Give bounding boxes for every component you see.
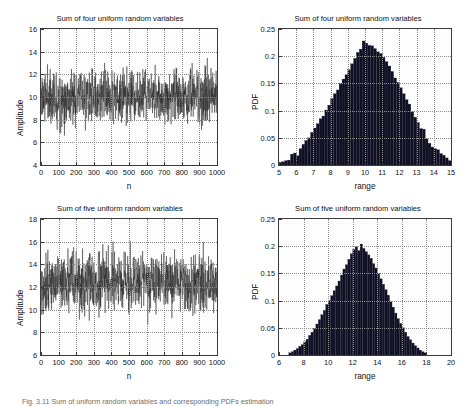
gridline-horizontal — [279, 301, 451, 302]
x-tick-label: 1000 — [209, 168, 225, 177]
x-tick-label: 500 — [123, 168, 135, 177]
x-tick-label: 6 — [277, 358, 281, 367]
x-tick-label: 800 — [176, 358, 188, 367]
gridline-horizontal — [279, 246, 451, 247]
y-tick-label: 0.05 — [248, 133, 275, 142]
x-tick-label: 0 — [39, 358, 43, 367]
y-tick-label: 0.2 — [248, 242, 275, 251]
histogram-bar — [372, 264, 374, 355]
histogram-bar — [351, 64, 354, 165]
histogram-bar — [409, 340, 411, 355]
gridline-vertical — [348, 29, 349, 165]
y-tick-mark — [279, 165, 282, 166]
histogram-bar — [440, 154, 443, 165]
y-tick-mark — [41, 74, 44, 75]
histogram-bar — [404, 332, 406, 355]
x-tick-mark — [76, 352, 77, 355]
x-tick-mark — [182, 352, 183, 355]
y-tick-label: 12 — [10, 283, 37, 292]
x-tick-label: 8 — [302, 358, 306, 367]
x-tick-label: 0 — [39, 168, 43, 177]
chart-title-bottom-right: Sum of five uniform random variables — [258, 204, 458, 213]
panel-top-left: Sum of four uniform random variables n A… — [6, 14, 220, 196]
histogram-bar — [428, 143, 431, 165]
x-tick-label: 10 — [324, 358, 332, 367]
x-tick-mark — [59, 352, 60, 355]
y-tick-mark — [279, 29, 282, 30]
x-tick-mark — [348, 162, 349, 165]
x-tick-label: 12 — [395, 168, 403, 177]
x-tick-mark — [94, 352, 95, 355]
y-tick-mark — [41, 165, 44, 166]
histogram-bar — [388, 66, 391, 165]
x-tick-mark — [164, 162, 165, 165]
histogram-bar — [311, 332, 313, 355]
histogram-bar — [380, 279, 382, 355]
histogram-bar — [394, 78, 397, 165]
histogram-bar — [382, 284, 384, 355]
histogram-bar — [343, 269, 345, 355]
y-tick-mark — [41, 29, 44, 30]
x-tick-mark — [417, 162, 418, 165]
x-tick-label: 200 — [70, 168, 82, 177]
chart-title-bottom-left: Sum of five uniform random variables — [20, 204, 220, 213]
histogram-bar — [288, 160, 291, 165]
panel-bottom-left: Sum of five uniform random variables n A… — [6, 204, 220, 386]
gridline-horizontal — [41, 287, 217, 288]
histogram-bar — [368, 45, 371, 165]
y-tick-label: 0.15 — [248, 269, 275, 278]
x-tick-label: 13 — [412, 168, 420, 177]
x-tick-mark — [296, 162, 297, 165]
histogram-bar — [296, 348, 298, 355]
x-tick-mark — [147, 352, 148, 355]
histogram-bar — [425, 139, 428, 165]
y-tick-label: 0.1 — [248, 106, 275, 115]
histogram-bar — [336, 286, 338, 355]
histogram-bar — [374, 49, 377, 165]
histogram-bar — [289, 353, 291, 355]
x-tick-mark — [399, 162, 400, 165]
gridline-horizontal — [279, 83, 451, 84]
y-tick-mark — [279, 83, 282, 84]
y-tick-label: 6 — [10, 138, 37, 147]
x-tick-label: 5 — [277, 168, 281, 177]
gridline-horizontal — [41, 242, 217, 243]
x-tick-mark — [331, 162, 332, 165]
y-tick-label: 0.25 — [248, 215, 275, 224]
y-tick-label: 16 — [10, 237, 37, 246]
histogram-bar — [360, 244, 362, 355]
plot-area-bottom-left — [40, 218, 218, 356]
x-tick-mark — [164, 352, 165, 355]
y-tick-mark — [279, 111, 282, 112]
plot-area-top-left — [40, 28, 218, 166]
gridline-horizontal — [41, 74, 217, 75]
x-tick-label: 600 — [140, 168, 152, 177]
y-tick-mark — [279, 355, 282, 356]
histogram-bar — [354, 58, 357, 165]
x-tick-label: 7 — [311, 168, 315, 177]
gridline-vertical — [296, 29, 297, 165]
x-tick-label: 8 — [329, 168, 333, 177]
histogram-bar — [319, 119, 322, 165]
histogram-bar — [365, 252, 367, 355]
histogram-bar — [367, 255, 369, 355]
gridline-horizontal — [279, 111, 451, 112]
gridline-horizontal — [41, 264, 217, 265]
y-tick-mark — [41, 97, 44, 98]
gridline-horizontal — [41, 120, 217, 121]
x-tick-label: 9 — [346, 168, 350, 177]
gridline-vertical — [328, 219, 329, 355]
x-axis-label-top-left: n — [40, 182, 218, 191]
y-tick-label: 14 — [10, 260, 37, 269]
panel-bottom-right: Sum of five uniform random variables ran… — [240, 204, 458, 386]
x-tick-mark — [353, 352, 354, 355]
gridline-vertical — [417, 29, 418, 165]
histogram-bar — [376, 52, 379, 165]
x-tick-label: 500 — [123, 358, 135, 367]
histogram-bar — [422, 352, 424, 355]
x-tick-label: 100 — [52, 358, 64, 367]
gridline-horizontal — [279, 328, 451, 329]
gridline-horizontal — [41, 332, 217, 333]
x-tick-label: 600 — [140, 358, 152, 367]
